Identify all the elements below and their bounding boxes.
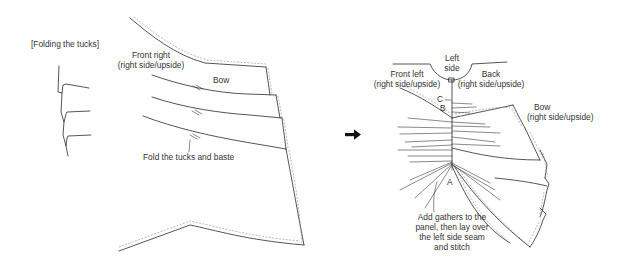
front-left-label: Front left (right side/upside) xyxy=(371,69,443,89)
add-gathers-instruction: Add gathers to the panel, then lay over … xyxy=(408,212,496,252)
add-gathers-line-2: panel, then lay over xyxy=(408,222,496,232)
bow-right-label: Bow (right side/upside) xyxy=(527,102,594,122)
back-label-line-2: (right side/upside) xyxy=(455,79,527,89)
add-gathers-line-1: Add gathers to the xyxy=(408,212,496,222)
folding-tucks-title: [Folding the tucks] xyxy=(31,39,99,49)
back-label: Back (right side/upside) xyxy=(455,69,527,89)
front-left-label-line-1: Front left xyxy=(371,69,443,79)
front-left-label-line-2: (right side/upside) xyxy=(371,79,443,89)
bow-right-label-line-1: Bow xyxy=(527,102,594,112)
add-gathers-line-3: the left side seam xyxy=(408,232,496,242)
bow-right-label-line-2: (right side/upside) xyxy=(527,112,594,122)
front-right-label-line-2: (right side/upside) xyxy=(113,60,189,70)
left-side-label-line-1: Left xyxy=(438,53,466,63)
fold-tucks-instruction: Fold the tucks and baste xyxy=(143,152,234,162)
back-label-line-1: Back xyxy=(455,69,527,79)
add-gathers-line-4: and stitch xyxy=(408,242,496,252)
right-arrow-icon xyxy=(345,130,361,140)
point-b-label: B xyxy=(440,103,446,113)
front-right-label: Front right (right side/upside) xyxy=(113,50,189,70)
sewing-diagram: [Folding the tucks] Front right (right s… xyxy=(0,0,628,276)
point-a-label: A xyxy=(447,177,453,187)
front-right-label-line-1: Front right xyxy=(113,50,189,60)
tuck-fold-detail xyxy=(58,66,91,156)
bow-label: Bow xyxy=(213,75,229,85)
